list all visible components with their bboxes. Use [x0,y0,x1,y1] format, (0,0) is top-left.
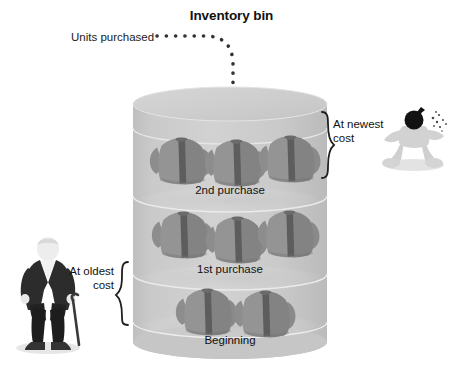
bin-layer-caption-beginning: Beginning [133,334,327,346]
bin-divider-1st [133,274,327,290]
cane-icon [73,300,79,345]
at-newest-cost-line1: At newest [333,117,384,131]
page-title-text: Inventory bin [190,8,273,23]
bin-layer-1st-purchase-units [152,210,320,263]
sweater-icon [152,211,214,258]
sweater-icon [234,290,296,337]
page-title: Inventory bin [0,8,455,23]
bin-layer-caption-1st-purchase: 1st purchase [133,263,327,275]
at-oldest-cost-line1: At oldest [52,264,114,278]
sweater-icon [258,210,320,257]
sweater-icon [259,135,321,182]
sweater-icon [150,137,212,184]
sweater-icon [206,216,268,263]
inventory-bin-diagram: Inventory bin Units purchased [0,0,455,366]
sweater-icon [205,139,267,186]
bin-divider-top [133,128,327,144]
old-man-with-cane-character [16,237,80,354]
at-newest-cost-line2: cost [333,131,384,145]
bin-layer-beginning-units [176,288,296,337]
bin-divider-2nd [133,196,327,212]
units-purchased-arrow [157,36,240,107]
inventory-bin-cylinder [133,87,327,359]
units-purchased-label: Units purchased [71,31,154,43]
at-newest-cost-label: At newest cost [333,117,384,145]
oldest-cost-brace [116,262,128,325]
spark-icon [432,111,447,132]
at-oldest-cost-label: At oldest cost [52,264,114,292]
sweater-icon [176,288,238,335]
bomb-head-character [382,107,447,171]
at-oldest-cost-line2: cost [52,278,114,292]
bin-layer-2nd-purchase-units [150,135,321,186]
diagram-artwork [0,0,455,366]
bin-layer-caption-2nd-purchase: 2nd purchase [133,184,327,196]
